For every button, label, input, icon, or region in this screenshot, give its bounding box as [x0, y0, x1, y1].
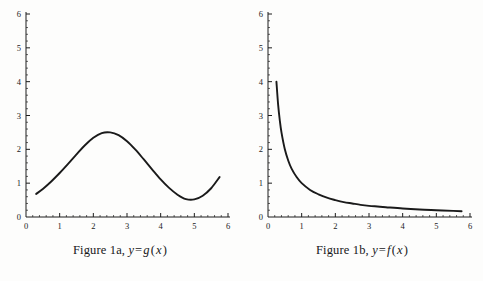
y-tick-label: 2 [17, 144, 21, 154]
caption-1b-paren-close: ) [403, 243, 409, 257]
caption-1a-argument: x [156, 243, 162, 257]
y-tick-label: 5 [17, 43, 21, 53]
x-tick-label: 3 [367, 221, 371, 231]
x-tick-label: 4 [401, 221, 406, 231]
figure-1a: 01234560123456 Figure 1a, y=g(x) [0, 0, 241, 281]
x-tick-label: 2 [333, 221, 337, 231]
y-tick-label: 0 [17, 212, 21, 222]
chart-1a-svg: 01234560123456 [0, 0, 241, 238]
x-tick-label: 6 [226, 221, 230, 231]
x-tick-label: 0 [266, 221, 270, 231]
caption-1b-equals: = [378, 243, 387, 257]
figure-page: 01234560123456 Figure 1a, y=g(x) 0123456… [0, 0, 483, 281]
x-tick-label: 5 [192, 221, 196, 231]
y-tick-label: 1 [17, 178, 21, 188]
x-tick-label: 0 [24, 221, 28, 231]
x-tick-label: 6 [468, 221, 472, 231]
caption-1a-equals: = [134, 243, 143, 257]
y-tick-label: 3 [17, 111, 21, 121]
x-tick-label: 4 [159, 221, 164, 231]
curve-f-of-x [276, 82, 461, 212]
y-tick-label: 6 [17, 9, 21, 19]
curve-g-of-x [36, 132, 219, 200]
x-tick-label: 1 [58, 221, 62, 231]
caption-1a-prefix: Figure 1a, [73, 243, 125, 257]
caption-figure-1b: Figure 1b, y=f(x) [242, 243, 483, 258]
y-tick-label: 5 [259, 43, 263, 53]
x-tick-label: 2 [91, 221, 95, 231]
y-tick-label: 4 [259, 77, 264, 87]
plot-area-1a: 01234560123456 [0, 0, 241, 238]
caption-1a-paren-close: ) [162, 243, 168, 257]
y-tick-label: 2 [259, 144, 263, 154]
caption-figure-1a: Figure 1a, y=g(x) [0, 243, 241, 258]
x-tick-label: 5 [434, 221, 438, 231]
x-tick-label: 3 [125, 221, 129, 231]
axes-1b: 01234560123456 [259, 9, 472, 231]
figure-1b: 01234560123456 Figure 1b, y=f(x) [242, 0, 483, 281]
y-tick-label: 4 [17, 77, 22, 87]
caption-1b-argument: x [397, 243, 403, 257]
caption-1a-function: g [143, 243, 149, 257]
caption-1b-lhs: y [372, 243, 378, 257]
y-tick-label: 3 [259, 111, 263, 121]
y-tick-label: 1 [259, 178, 263, 188]
y-tick-label: 0 [259, 212, 263, 222]
y-tick-label: 6 [259, 9, 263, 19]
plot-area-1b: 01234560123456 [242, 0, 483, 238]
caption-1b-prefix: Figure 1b, [316, 243, 369, 257]
chart-1b-svg: 01234560123456 [242, 0, 483, 238]
x-tick-label: 1 [300, 221, 304, 231]
